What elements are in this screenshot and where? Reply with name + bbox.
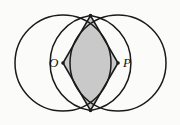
vertex-dot-bottom — [89, 109, 93, 113]
geometry-figure: O P — [0, 0, 180, 125]
vertex-dot-O — [61, 61, 65, 65]
vertex-dot-top — [89, 14, 93, 18]
label-point-p: P — [123, 56, 131, 69]
shaded-rhombus — [63, 16, 118, 111]
label-point-o: O — [49, 56, 58, 69]
geometry-diagram-svg — [0, 0, 180, 125]
vertex-dot-P — [116, 61, 120, 65]
